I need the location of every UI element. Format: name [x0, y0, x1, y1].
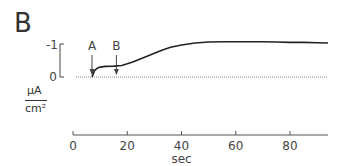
- x-tick-label: 20: [120, 139, 135, 153]
- annotation-label-a: A: [88, 39, 97, 53]
- current-trace: [92, 42, 328, 77]
- annotation-label-b: B: [112, 39, 120, 53]
- x-tick-label: 60: [228, 139, 243, 153]
- x-tick-label: 0: [69, 139, 77, 153]
- x-axis-label: sec: [171, 152, 191, 166]
- y-scale-label-minus-one: -1: [46, 38, 58, 52]
- x-tick-label: 80: [282, 139, 297, 153]
- y-scale-label-zero: 0: [49, 70, 57, 84]
- chart: 020406080sec0-1AB: [0, 0, 341, 166]
- x-tick-label: 40: [174, 139, 189, 153]
- arrowhead-b-icon: [114, 69, 119, 75]
